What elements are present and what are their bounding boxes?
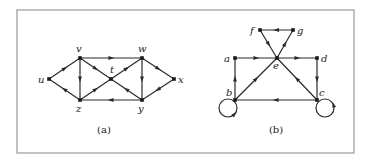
arrow-icon xyxy=(273,98,279,102)
vertex-label-e: e xyxy=(273,60,279,71)
graph-panel-b: fgaedbc(b) xyxy=(219,25,336,135)
arrow-icon xyxy=(124,88,130,93)
vertex-label-w: w xyxy=(138,43,147,54)
arrow-icon xyxy=(155,65,161,70)
vertex-b xyxy=(233,98,237,102)
vertex-label-g: g xyxy=(297,25,303,36)
vertex-d xyxy=(315,56,319,60)
vertex-a xyxy=(233,56,237,60)
vertex-label-f: f xyxy=(249,25,256,36)
arrow-icon xyxy=(108,98,114,102)
arrow-icon xyxy=(315,76,319,82)
directed-graphs-figure: uvwxzyt(a) fgaedbc(b) xyxy=(0,0,369,158)
arrow-icon xyxy=(266,41,271,47)
vertex-c xyxy=(315,98,319,102)
graph-panel-a: uvwxzyt(a) xyxy=(38,43,184,135)
arrow-icon xyxy=(282,41,287,47)
arrow-icon xyxy=(273,28,279,32)
vertex-x xyxy=(172,77,176,81)
vertex-label-c: c xyxy=(319,87,325,98)
figure-frame xyxy=(17,10,354,153)
arrow-icon xyxy=(140,76,144,82)
arrow-icon xyxy=(108,56,114,60)
vertex-label-z: z xyxy=(75,103,82,114)
arrow-icon xyxy=(253,56,259,60)
vertex-label-v: v xyxy=(76,43,82,54)
vertex-g xyxy=(291,28,295,32)
arrow-icon xyxy=(155,86,161,91)
vertex-w xyxy=(140,56,144,60)
vertex-label-y: y xyxy=(137,103,144,114)
caption-a: (a) xyxy=(97,124,111,135)
vertex-f xyxy=(258,28,262,32)
arrow-icon xyxy=(92,88,98,93)
vertex-t xyxy=(109,77,113,81)
arrow-icon xyxy=(62,88,68,93)
arrow-icon xyxy=(78,76,82,82)
arrow-icon xyxy=(123,67,129,72)
arrow-icon xyxy=(332,102,336,108)
vertex-label-t: t xyxy=(110,64,115,75)
vertex-z xyxy=(78,98,82,102)
vertex-u xyxy=(47,77,51,81)
vertex-label-b: b xyxy=(226,87,232,98)
vertex-label-a: a xyxy=(224,53,230,64)
vertex-label-x: x xyxy=(178,74,184,85)
caption-b: (b) xyxy=(269,124,283,135)
vertex-v xyxy=(78,56,82,60)
vertex-y xyxy=(140,98,144,102)
vertex-label-d: d xyxy=(321,53,327,64)
arrow-icon xyxy=(233,76,237,82)
vertex-label-u: u xyxy=(38,74,44,85)
arrow-icon xyxy=(61,67,67,72)
arrow-icon xyxy=(92,65,98,70)
arrow-icon xyxy=(294,56,300,60)
